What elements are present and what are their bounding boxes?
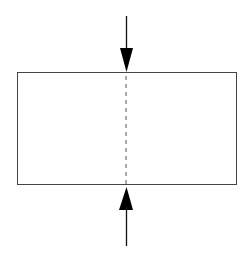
block-rectangle	[18, 73, 237, 185]
compression-diagram	[0, 0, 249, 262]
arrow-up-icon	[119, 187, 133, 246]
arrow-down-icon	[120, 16, 133, 72]
